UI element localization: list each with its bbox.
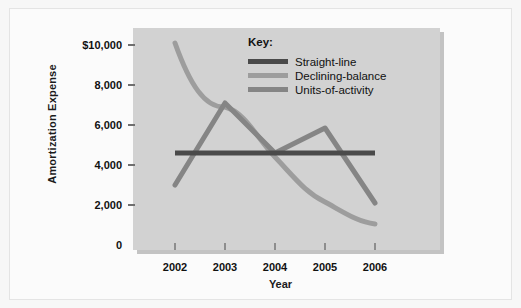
y-tick-label-6000: 6,000 [94, 119, 122, 131]
y-tick-label-8000: 8,000 [94, 79, 122, 91]
legend-swatch-straight-line [248, 59, 288, 64]
chart-figure: Amortization Expense $10,000 8,000 6,000… [0, 0, 521, 308]
chart-legend: Key: Straight-line Declining-balance Uni… [248, 36, 428, 97]
x-tick-mark-2006 [374, 243, 376, 250]
legend-item-straight-line: Straight-line [248, 55, 428, 68]
x-tick-label-2003: 2003 [213, 261, 237, 273]
x-tick-label-2006: 2006 [363, 261, 387, 273]
legend-title: Key: [248, 36, 428, 48]
y-tick-label-2000: 2,000 [94, 199, 122, 211]
legend-swatch-declining-balance [248, 73, 288, 78]
legend-label-declining-balance: Declining-balance [295, 70, 386, 82]
y-tick-label-0: 0 [116, 239, 122, 251]
x-tick-label-2005: 2005 [313, 261, 337, 273]
x-tick-mark-2004 [274, 243, 276, 250]
y-tick-mark-10000 [128, 44, 135, 46]
y-tick-mark-6000 [128, 124, 135, 126]
y-tick-label-10000: $10,000 [82, 39, 122, 51]
legend-item-declining-balance: Declining-balance [248, 69, 428, 82]
legend-item-units-of-activity: Units-of-activity [248, 83, 428, 96]
x-axis-title: Year [0, 278, 521, 290]
y-tick-mark-2000 [128, 204, 135, 206]
y-tick-label-4000: 4,000 [94, 159, 122, 171]
x-tick-mark-2003 [224, 243, 226, 250]
x-tick-label-2002: 2002 [163, 261, 187, 273]
legend-label-straight-line: Straight-line [295, 56, 356, 68]
x-tick-label-2004: 2004 [263, 261, 287, 273]
legend-swatch-units-of-activity [248, 87, 288, 92]
y-axis-tick-labels: $10,000 8,000 6,000 4,000 2,000 0 [46, 0, 122, 308]
legend-label-units-of-activity: Units-of-activity [295, 84, 374, 96]
y-tick-mark-4000 [128, 164, 135, 166]
x-axis-title-text: Year [269, 278, 292, 290]
x-tick-mark-2005 [324, 243, 326, 250]
x-tick-mark-2002 [174, 243, 176, 250]
y-tick-mark-8000 [128, 84, 135, 86]
